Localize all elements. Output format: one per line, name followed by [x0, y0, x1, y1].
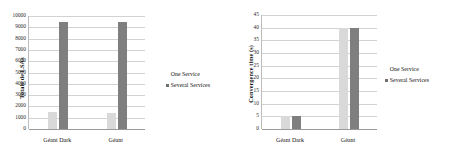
y-tick-label: 3000: [15, 92, 26, 97]
y-tick-label: 5000: [15, 70, 26, 75]
y-tick-label: 35: [254, 38, 259, 43]
y-tick-label: 4000: [15, 81, 26, 86]
bar-one-service: [48, 112, 57, 129]
bar-group: [29, 16, 88, 129]
figure-two-bar-charts: Totale de LSAs 0100020003000400050006000…: [0, 0, 458, 157]
bar-group-container-left: [29, 16, 145, 129]
y-tick-label: 9000: [15, 25, 26, 30]
legend-label-several-services: Several Services: [171, 82, 210, 88]
bar-one-service: [339, 28, 348, 129]
legend-label-one-service: One Service: [171, 71, 200, 77]
x-tick-label: Géant: [109, 137, 123, 143]
chart-panel-lsas: Totale de LSAs 0100020003000400050006000…: [0, 0, 229, 157]
y-tick-label: 6000: [15, 58, 26, 63]
bar-one-service: [107, 113, 116, 129]
y-tick-label: 25: [254, 63, 259, 68]
legend-swatch-several-services-icon: [385, 79, 388, 82]
legend-swatch-one-service-icon: [166, 72, 169, 75]
y-tick-label: 40: [254, 25, 259, 30]
legend-swatch-several-services-icon: [166, 84, 169, 87]
bar-several-services: [350, 28, 359, 129]
bar-group: [88, 16, 147, 129]
plot-area-right: [261, 15, 377, 129]
y-tick-label: 10: [254, 101, 259, 106]
legend-item-one-service: One Service: [385, 66, 429, 72]
bar-group: [320, 15, 378, 129]
chart-panel-convergence: Convergence time (s) 051015202530354045 …: [229, 0, 458, 157]
legend-item-one-service: One Service: [166, 71, 210, 77]
plot-area-left: [28, 16, 145, 129]
legend-label-one-service: One Service: [390, 66, 419, 72]
gridline: [262, 129, 377, 130]
bar-group-container-right: [262, 15, 377, 129]
y-tick-label: 30: [254, 50, 259, 55]
bar-several-services: [59, 22, 68, 129]
bar-one-service: [281, 116, 290, 129]
legend-left: One Service Several Services: [166, 71, 210, 93]
legend-label-several-services: Several Services: [390, 77, 429, 83]
bar-several-services: [292, 116, 301, 129]
bar-group: [262, 15, 320, 129]
y-tick-label: 7000: [15, 47, 26, 52]
y-tick-label: 2000: [15, 104, 26, 109]
y-tick-label: 0: [256, 126, 259, 131]
legend-item-several-services: Several Services: [166, 82, 210, 88]
y-tick-label: 10000: [13, 13, 26, 18]
legend-swatch-one-service-icon: [385, 67, 388, 70]
y-tick-label: 5: [256, 114, 259, 119]
x-tick-label: Géant: [341, 137, 355, 143]
y-tick-label: 0: [23, 126, 26, 131]
y-tick-label: 15: [254, 88, 259, 93]
x-tick-label: Géant Dark: [43, 137, 71, 143]
y-tick-label: 45: [254, 12, 259, 17]
x-tick-label: Géant Dark: [276, 137, 304, 143]
y-tick-label: 8000: [15, 36, 26, 41]
gridline: [29, 129, 145, 130]
y-tick-label: 20: [254, 76, 259, 81]
y-tick-label: 1000: [15, 115, 26, 120]
bar-several-services: [118, 22, 127, 129]
legend-item-several-services: Several Services: [385, 77, 429, 83]
legend-right: One Service Several Services: [385, 66, 429, 88]
